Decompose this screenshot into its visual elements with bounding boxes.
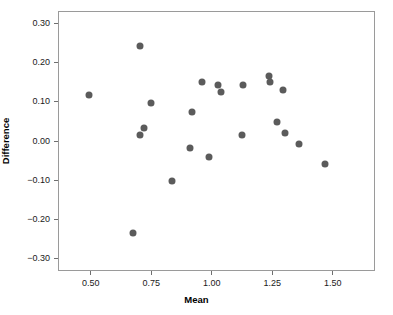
y-axis-tick-label: 0.00 [32,137,54,146]
x-axis-tick-mark [332,271,333,275]
data-point [186,145,193,152]
y-axis-tick-label: 0.20 [32,58,54,67]
data-point [238,132,245,139]
x-axis-tick-mark [151,271,152,275]
x-axis-tick-label: 0.75 [142,279,160,288]
y-axis-tick-mark [54,23,58,24]
data-point [147,100,154,107]
y-axis-tick-label: 0.10 [32,97,54,106]
y-axis-tick-mark [54,62,58,63]
x-axis-tick-mark [211,271,212,275]
y-axis-tick-label: −0.10 [27,176,54,185]
plot-area-frame [58,11,375,271]
x-axis-tick-label: 1.25 [263,279,281,288]
y-axis-tick-label: −0.30 [27,254,54,263]
data-point [136,42,143,49]
data-point [141,125,148,132]
x-axis-tick-mark [272,271,273,275]
y-axis-tick-mark [54,141,58,142]
y-axis-tick-mark [54,258,58,259]
data-point [321,161,328,168]
data-point [168,178,175,185]
data-point [282,130,289,137]
data-point [85,92,92,99]
y-axis-tick-mark [54,219,58,220]
data-point [189,108,196,115]
data-point [137,131,144,138]
data-point [218,89,225,96]
y-axis-tick-label: 0.30 [32,19,54,28]
x-axis-title: Mean [0,294,393,305]
x-axis-tick-label: 0.50 [82,279,100,288]
data-point [267,79,274,86]
x-axis-tick-label: 1.00 [203,279,221,288]
data-points-layer [59,12,374,270]
y-axis-tick-mark [54,101,58,102]
data-point [205,153,212,160]
y-axis-title: Difference [0,118,11,164]
data-point [279,87,286,94]
data-point [239,82,246,89]
data-point [296,141,303,148]
data-point [129,230,136,237]
data-point [198,79,205,86]
y-axis-tick-label: −0.20 [27,215,54,224]
x-axis-tick-label: 1.50 [324,279,342,288]
y-axis-tick-mark [54,180,58,181]
x-axis-tick-mark [90,271,91,275]
data-point [274,119,281,126]
scatter-plot-figure: 0.300.200.100.00−0.10−0.20−0.30 0.500.75… [0,0,393,315]
